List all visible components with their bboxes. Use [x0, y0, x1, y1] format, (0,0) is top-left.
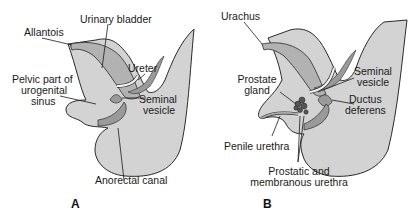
label-prostate-gland-2: gland: [233, 85, 281, 96]
label-urinary-bladder: Urinary bladder: [80, 14, 152, 25]
label-seminal-vesicle-b-2: vesicle: [357, 77, 389, 88]
label-penile-urethra: Penile urethra: [224, 141, 289, 152]
label-ureter: Ureter: [128, 63, 157, 74]
label-urachus: Urachus: [221, 11, 260, 22]
panel-b-drawing: [244, 20, 407, 176]
label-prostatic-urethra-2: membranous urethra: [240, 177, 358, 188]
panel-label-b: B: [263, 197, 272, 211]
label-pelvic-part-3: sinus: [31, 96, 56, 107]
label-seminal-vesicle-a-2: vesicle: [143, 105, 175, 116]
label-ductus-deferens-2: deferens: [345, 105, 386, 116]
label-anorectal-canal: Anorectal canal: [95, 175, 167, 186]
panel-label-a: A: [71, 197, 80, 211]
label-allantois: Allantois: [24, 27, 64, 38]
